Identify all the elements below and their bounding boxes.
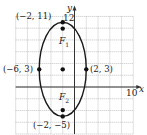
data-point bbox=[84, 67, 88, 71]
right-vertex-label: (2, 3) bbox=[90, 64, 113, 74]
top-vertex-label: (−2, 11) bbox=[16, 11, 51, 21]
axes bbox=[16, 5, 142, 134]
data-point bbox=[61, 67, 65, 71]
y-axis-arrow-icon bbox=[73, 5, 77, 10]
left-vertex-label: (−6, 3) bbox=[3, 64, 33, 74]
y-tick-label: 12 bbox=[63, 13, 74, 23]
y-axis-label: y bbox=[66, 3, 73, 13]
ellipse-graph: (−2, 11) (−6, 3) (2, 3) (−2, −5) F1 F2 y… bbox=[0, 0, 147, 135]
bottom-vertex-label: (−2, −5) bbox=[33, 120, 70, 130]
focus-2-label: F2 bbox=[58, 92, 69, 104]
data-point bbox=[61, 26, 65, 30]
data-point bbox=[61, 114, 65, 118]
chart-plot: (−2, 11) (−6, 3) (2, 3) (−2, −5) F1 F2 y… bbox=[0, 0, 147, 135]
data-point bbox=[61, 108, 65, 112]
x-tick-label: 10 bbox=[126, 88, 138, 98]
data-point bbox=[37, 67, 41, 71]
focus-1-label: F1 bbox=[58, 36, 69, 48]
x-axis-label: x bbox=[139, 84, 144, 94]
